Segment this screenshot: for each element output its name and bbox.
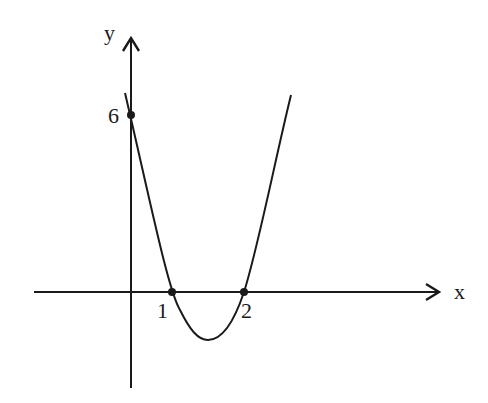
root-1-label: 1: [157, 298, 168, 323]
y-intercept-label: 6: [108, 103, 119, 128]
root-1-point: [168, 288, 176, 296]
y-intercept-point: [127, 111, 135, 119]
x-axis-label: x: [454, 279, 465, 304]
root-2-label: 2: [241, 298, 252, 323]
root-2-point: [240, 288, 248, 296]
graph-canvas: y x 6 1 2: [0, 0, 488, 403]
parabola-curve: [125, 93, 291, 340]
y-axis-label: y: [104, 20, 115, 45]
